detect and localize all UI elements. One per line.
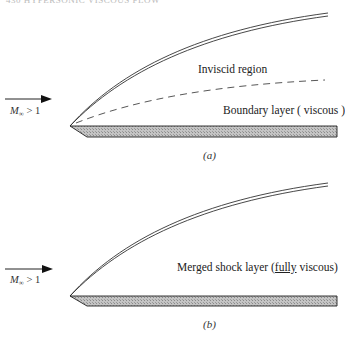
mach-label-a: M∞ > 1 <box>10 105 40 118</box>
flat-plate-b <box>70 296 337 306</box>
caption-b: (b) <box>203 318 216 330</box>
mach-symbol: M <box>10 274 19 285</box>
mach-relation: > 1 <box>24 105 40 116</box>
flat-plate-a <box>70 126 337 137</box>
merged-shock-layer-label: Merged shock layer (fully viscous) <box>177 261 338 273</box>
boundary-layer-label: Boundary layer ( viscous ) <box>223 104 345 116</box>
freestream-arrow-b <box>5 265 53 273</box>
merged-label-pre: Merged shock layer ( <box>177 261 275 273</box>
mach-label-b: M∞ > 1 <box>10 274 40 287</box>
inviscid-region-label: Inviscid region <box>198 63 267 75</box>
merged-label-fully: fully <box>275 261 297 273</box>
mach-symbol: M <box>10 105 19 116</box>
panel-a <box>5 13 337 137</box>
freestream-arrow-a <box>5 95 52 103</box>
shock-wave-b <box>70 183 328 296</box>
panel-b <box>5 183 337 306</box>
boundary-layer-edge <box>76 80 325 123</box>
mach-relation: > 1 <box>24 274 40 285</box>
merged-label-post: viscous) <box>297 261 338 273</box>
caption-a: (a) <box>203 149 216 161</box>
